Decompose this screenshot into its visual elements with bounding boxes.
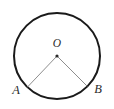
geometry-figure: O A B	[0, 0, 114, 109]
radius-segment-ob	[57, 56, 87, 86]
radius-segment-oa	[28, 56, 58, 87]
point-label-a: A	[11, 83, 20, 97]
circle-diagram-svg: O A B	[0, 0, 114, 109]
point-label-o: O	[53, 37, 62, 49]
center-point-marker	[55, 54, 58, 57]
point-label-b: B	[94, 82, 102, 96]
